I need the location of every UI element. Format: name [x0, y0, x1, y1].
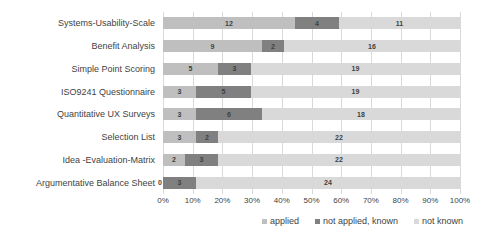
- bar-value-label: 3: [178, 111, 182, 118]
- bar-segment: 6: [196, 108, 262, 120]
- bar-track: 2322: [163, 154, 460, 166]
- bar-value-label: 0: [158, 179, 162, 186]
- category-label: Selection List: [0, 126, 159, 149]
- bar-segment: 3: [163, 177, 196, 189]
- bar-segment: 3: [218, 63, 251, 75]
- bar-track: 3618: [163, 108, 460, 120]
- category-label: Simple Point Scoring: [0, 58, 159, 81]
- legend-item[interactable]: not known: [414, 216, 463, 226]
- x-axis-tick-label: 60%: [333, 196, 349, 205]
- bar-value-label: 18: [357, 111, 365, 118]
- bar-value-label: 6: [227, 111, 231, 118]
- bar-segment: 2: [163, 154, 185, 166]
- bar-segment: 3: [163, 131, 196, 143]
- x-axis-tick-label: 100%: [450, 196, 470, 205]
- category-axis: Systems-Usability-ScaleBenefit AnalysisS…: [0, 12, 159, 194]
- category-label: Systems-Usability-Scale: [0, 12, 159, 35]
- legend-label: applied: [270, 216, 299, 226]
- bar-track: 3519: [163, 86, 460, 98]
- bar-segment: 24: [196, 177, 460, 189]
- bar-value-label: 22: [335, 134, 343, 141]
- bar-value-label: 22: [335, 156, 343, 163]
- bar-value-label: 3: [233, 65, 237, 72]
- x-axis-tick-label: 90%: [422, 196, 438, 205]
- x-axis-tick-label: 10%: [185, 196, 201, 205]
- bar-value-label: 3: [178, 134, 182, 141]
- bar-value-label: 2: [271, 43, 275, 50]
- bar-series-container: 124119216531935193618322223220324: [163, 12, 460, 194]
- bar-value-label: 2: [172, 156, 176, 163]
- bar-segment: 3: [163, 108, 196, 120]
- bar-value-label: 19: [352, 65, 360, 72]
- bar-segment: 11: [339, 17, 460, 29]
- bar-row: 3618: [163, 103, 460, 126]
- bar-value-label: 2: [205, 134, 209, 141]
- bar-track: 5319: [163, 63, 460, 75]
- bar-row: 2322: [163, 149, 460, 172]
- x-axis-tick-label: 40%: [274, 196, 290, 205]
- plot-area: 124119216531935193618322223220324: [163, 12, 460, 194]
- bar-segment: 5: [196, 86, 251, 98]
- bar-segment: 4: [295, 17, 339, 29]
- x-axis-tick-label: 80%: [393, 196, 409, 205]
- bar-value-label: 19: [352, 88, 360, 95]
- legend-swatch-icon: [414, 219, 419, 224]
- x-axis: 0%10%20%30%40%50%60%70%80%90%100%: [163, 196, 460, 210]
- bar-row: 5319: [163, 58, 460, 81]
- bar-value-label: 3: [178, 179, 182, 186]
- bar-value-label: 24: [324, 179, 332, 186]
- x-axis-tick-label: 50%: [303, 196, 319, 205]
- legend-label: not applied, known: [323, 216, 398, 226]
- bar-value-label: 5: [189, 65, 193, 72]
- bar-segment: 3: [163, 86, 196, 98]
- bar-segment: 12: [163, 17, 295, 29]
- bar-value-label: 16: [368, 43, 376, 50]
- bar-segment: 22: [218, 131, 460, 143]
- bar-track: 3222: [163, 131, 460, 143]
- bar-value-label: 3: [178, 88, 182, 95]
- bar-value-label: 12: [225, 20, 233, 27]
- category-label: Benefit Analysis: [0, 35, 159, 58]
- bar-segment: 3: [185, 154, 218, 166]
- bar-segment: 19: [251, 86, 460, 98]
- bar-segment: 9: [163, 40, 262, 52]
- chart-legend: appliednot applied, knownnot known: [0, 216, 473, 226]
- bar-value-label: 3: [200, 156, 204, 163]
- bar-segment: 22: [218, 154, 460, 166]
- category-label: ISO9241 Questionnaire: [0, 80, 159, 103]
- bar-row: 3519: [163, 80, 460, 103]
- bar-segment: 2: [196, 131, 218, 143]
- bar-row: 0324: [163, 171, 460, 194]
- bar-row: 12411: [163, 12, 460, 35]
- legend-label: not known: [422, 216, 463, 226]
- bar-row: 3222: [163, 126, 460, 149]
- legend-item[interactable]: applied: [262, 216, 299, 226]
- bar-track: 9216: [163, 40, 460, 52]
- bar-value-label: 5: [222, 88, 226, 95]
- bar-value-label: 9: [211, 43, 215, 50]
- gridline: [460, 12, 461, 194]
- legend-item[interactable]: not applied, known: [315, 216, 398, 226]
- bar-value-label: 4: [315, 20, 319, 27]
- bar-row: 9216: [163, 35, 460, 58]
- bar-segment: 2: [262, 40, 284, 52]
- legend-swatch-icon: [315, 219, 320, 224]
- bar-track: 12411: [163, 17, 460, 29]
- x-axis-tick-label: 20%: [214, 196, 230, 205]
- x-axis-tick-label: 0%: [157, 196, 169, 205]
- category-label: Idea -Evaluation-Matrix: [0, 149, 159, 172]
- bar-segment: 16: [284, 40, 460, 52]
- x-axis-tick-label: 70%: [363, 196, 379, 205]
- stacked-bar-chart: Systems-Usability-ScaleBenefit AnalysisS…: [0, 0, 481, 238]
- bar-value-label: 11: [396, 20, 403, 27]
- bar-track: 0324: [163, 177, 460, 189]
- x-axis-tick-label: 30%: [244, 196, 260, 205]
- bar-segment: 19: [251, 63, 460, 75]
- bar-segment: 5: [163, 63, 218, 75]
- category-label: Argumentative Balance Sheet: [0, 171, 159, 194]
- bar-segment: 18: [262, 108, 460, 120]
- category-label: Quantitative UX Surveys: [0, 103, 159, 126]
- legend-swatch-icon: [262, 219, 267, 224]
